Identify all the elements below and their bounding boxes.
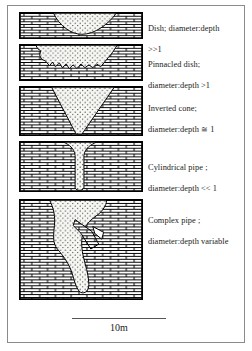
scalebar-line	[72, 318, 166, 319]
panel-complex-pipe-drawing	[20, 200, 142, 299]
label-complex-pipe: Complex pipe ; diameter:depth variable	[148, 205, 250, 247]
panel-cylindrical-pipe-drawing	[20, 142, 142, 191]
label-pinnacled-dish: Pinnacled dish; diameter:depth >1	[148, 49, 248, 91]
scalebar-label: 10m	[72, 322, 166, 333]
label-cylindrical-pipe-line2: diameter:depth << 1	[148, 184, 217, 193]
label-complex-pipe-line1: Complex pipe ;	[148, 216, 200, 225]
panel-dish-drawing	[20, 13, 142, 38]
panel-dish	[19, 12, 143, 39]
panel-complex-pipe	[19, 199, 143, 300]
panel-inverted-cone-drawing	[20, 87, 142, 135]
label-inverted-cone-line2: diameter:depth ≅ 1	[148, 125, 215, 134]
panel-pinnacled-dish	[19, 44, 143, 81]
panel-pinnacled-dish-drawing	[20, 45, 142, 80]
label-cylindrical-pipe-line1: Cylindrical pipe ;	[148, 163, 208, 172]
karst-morphology-figure: Dish; diameter:depth >>1 Pinnacl	[0, 0, 252, 351]
label-dish-line1: Dish; diameter:depth	[148, 24, 219, 33]
panel-inverted-cone	[19, 86, 143, 136]
panel-cylindrical-pipe	[19, 141, 143, 192]
label-inverted-cone: Inverted cone; diameter:depth ≅ 1	[148, 93, 248, 135]
label-pinnacled-dish-line2: diameter:depth >1	[148, 81, 210, 90]
label-pinnacled-dish-line1: Pinnacled dish;	[148, 60, 200, 69]
label-inverted-cone-line1: Inverted cone;	[148, 104, 197, 113]
label-cylindrical-pipe: Cylindrical pipe ; diameter:depth << 1	[148, 152, 248, 194]
label-complex-pipe-line2: diameter:depth variable	[148, 237, 228, 246]
